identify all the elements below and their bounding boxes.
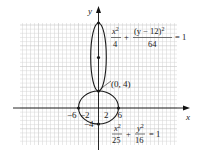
svg-text:x2: x2: [113, 123, 121, 134]
tick-label-6: 6: [118, 110, 123, 120]
tick-label-neg4: −4: [84, 119, 94, 129]
tick-label-neg6: −6: [67, 110, 77, 120]
upper-eq-num1-exp: 2: [116, 26, 119, 32]
upper-eq-den1: 4: [113, 39, 118, 49]
upper-eq-num2: (y − 12): [134, 26, 162, 36]
x-axis-label: x: [185, 112, 190, 122]
x-axis-arrow-icon: [183, 106, 190, 111]
point-top-vertex: [97, 21, 100, 24]
ellipses-figure: x y −6 −2 2 6 −4 (0, 4) x2 4 + (y − 12)2…: [0, 0, 200, 152]
tick-label-2: 2: [104, 110, 109, 120]
lower-equation: x2 25 + y2 16 = 1: [112, 123, 160, 146]
y-axis-arrow-icon: [96, 6, 101, 13]
point-upper-center: [97, 56, 100, 59]
svg-text:x2: x2: [111, 26, 119, 37]
svg-text:(y − 12)2: (y − 12)2: [134, 26, 164, 37]
upper-eq-num2-exp: 2: [161, 26, 164, 32]
leader-0-4: [100, 81, 112, 90]
lower-eq-num1-exp: 2: [118, 123, 121, 129]
point-label-0-4: (0, 4): [111, 79, 131, 89]
upper-eq-plus: +: [124, 32, 129, 42]
lower-eq-equals: = 1: [149, 129, 160, 139]
upper-eq-den2: 64: [148, 39, 157, 49]
lower-eq-plus: +: [126, 129, 131, 139]
lower-eq-den1: 25: [112, 135, 121, 145]
lower-eq-num2-exp: 2: [141, 123, 144, 129]
point-0-neg4: [97, 122, 100, 125]
y-axis-label: y: [87, 6, 92, 16]
lower-eq-den2: 16: [135, 135, 144, 145]
upper-eq-equals: = 1: [175, 32, 186, 42]
